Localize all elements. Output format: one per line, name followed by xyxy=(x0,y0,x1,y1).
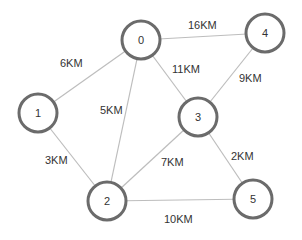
nodes-layer: 012345 xyxy=(19,14,284,220)
node-label: 3 xyxy=(195,111,201,123)
node-label: 2 xyxy=(104,195,110,207)
node-label: 0 xyxy=(138,34,144,46)
edge-label-0-2: 5KM xyxy=(100,104,123,116)
node-label: 5 xyxy=(250,193,256,205)
node-4: 4 xyxy=(246,14,284,52)
edge-0-2 xyxy=(107,40,141,201)
node-3: 3 xyxy=(179,98,217,136)
node-label: 4 xyxy=(262,27,268,39)
graph-canvas: 6KM16KM5KM11KM9KM3KM7KM2KM10KM 012345 xyxy=(0,0,302,240)
node-5: 5 xyxy=(234,180,272,218)
edge-label-0-3: 11KM xyxy=(172,63,200,75)
edge-label-1-2: 3KM xyxy=(45,154,68,166)
edge-label-2-5: 10KM xyxy=(164,213,193,225)
edge-2-5 xyxy=(107,199,253,201)
edge-label-0-4: 16KM xyxy=(188,19,217,31)
edge-label-0-1: 6KM xyxy=(60,57,83,69)
node-0: 0 xyxy=(122,21,160,59)
node-2: 2 xyxy=(88,182,126,220)
graph-diagram: 6KM16KM5KM11KM9KM3KM7KM2KM10KM 012345 xyxy=(0,0,302,240)
node-label: 1 xyxy=(35,107,41,119)
edge-label-3-2: 7KM xyxy=(161,156,184,168)
edge-label-3-5: 2KM xyxy=(231,150,254,162)
edge-label-4-3: 9KM xyxy=(239,72,262,84)
node-1: 1 xyxy=(19,94,57,132)
